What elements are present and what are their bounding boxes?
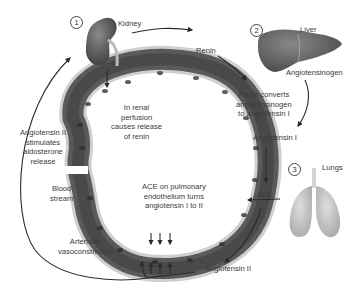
ace-pulmonary-note: ACE on pulmonary endothelium turns angio… (142, 182, 206, 211)
angiotensin-1-label: Angiotensin I (253, 133, 297, 143)
angiotensin-2-label: Angiotensin II (205, 264, 251, 274)
ace-label: ACE (257, 190, 273, 200)
vasoconstriction-label: Arteriolar vasoconstriction (58, 237, 112, 256)
step-1-badge: 1 (70, 16, 83, 29)
renal-perfusion-note: In renal perfusion causes release of ren… (111, 103, 162, 141)
step-2-badge: 2 (250, 24, 263, 37)
liver-icon (258, 29, 342, 72)
lungs-icon (290, 168, 340, 237)
aldosterone-note: Angiotensin II stimulates aldosterone re… (20, 128, 66, 166)
liver-label: Liver (300, 25, 316, 35)
renin-label: Renin (196, 46, 216, 56)
blood-stream-label: Blood stream (50, 184, 73, 203)
kidney-label: Kidney (118, 19, 141, 29)
lungs-label: Lungs (322, 163, 343, 173)
step-3-badge: 3 (288, 163, 301, 176)
angiotensinogen-label: Angiotensinogen (286, 68, 343, 78)
renin-converts-note: Renin converts angiotensinogen to angiot… (236, 90, 292, 119)
